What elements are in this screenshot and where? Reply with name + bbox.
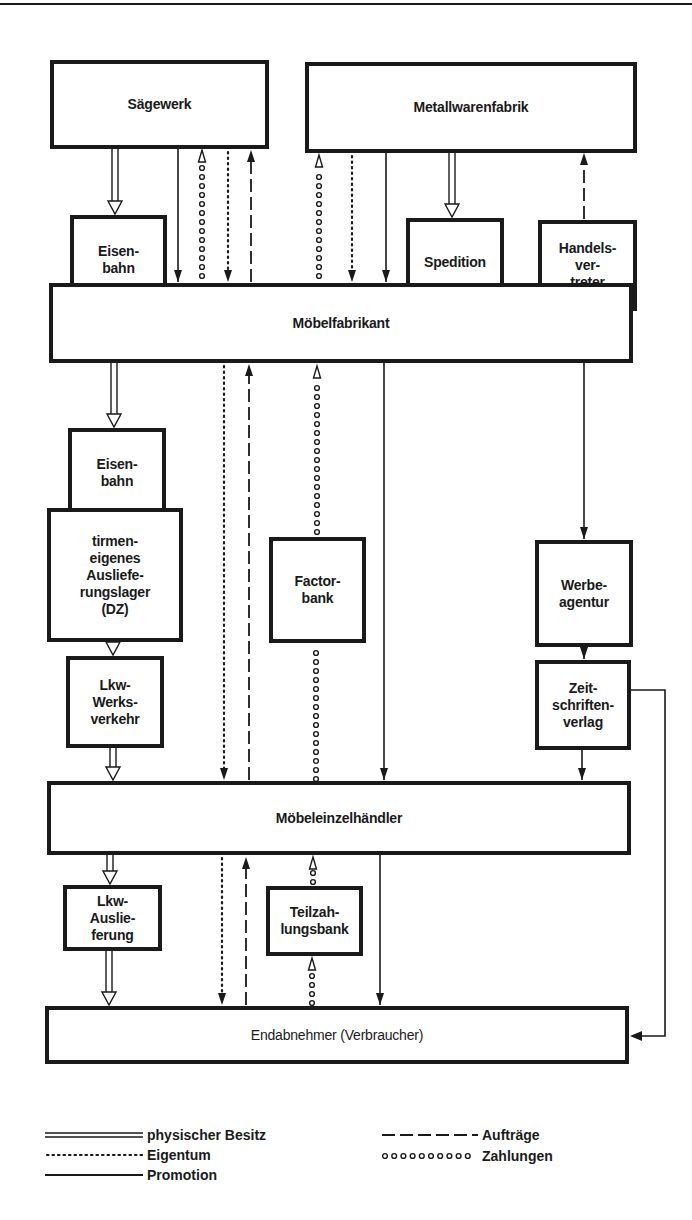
node-metallwarenfabrik: Metallwarenfabrik [305, 62, 637, 153]
node-moebeleinzelhaendler: Möbeleinzelhändler [47, 781, 631, 855]
circle-line-icon [382, 1151, 478, 1161]
node-saegewerk: Sägewerk [50, 60, 269, 149]
node-lkw-auslieferung: Lkw- Auslie- ferung [63, 885, 162, 951]
node-zeitschriftenverlag: Zeit- schriften- verlag [535, 660, 631, 750]
dotted-line-icon [45, 1150, 143, 1160]
legend-label-promotion: Promotion [147, 1166, 217, 1184]
node-teilzahlungsbank: Teilzah- lungsbank [266, 886, 363, 956]
node-eisenbahn-2: Eisen- bahn [68, 428, 166, 517]
legend-label-orders: Aufträge [482, 1126, 540, 1144]
legend-label-ownership: Eigentum [147, 1146, 211, 1164]
node-endabnehmer: Endabnehmer (Verbraucher) [45, 1006, 629, 1064]
double-line-icon [45, 1130, 143, 1140]
legend-label-payments: Zahlungen [482, 1147, 553, 1165]
dashed-line-icon [382, 1130, 478, 1140]
node-factorbank: Factor- bank [269, 537, 366, 643]
node-werbeagentur: Werbe- agentur [535, 540, 633, 647]
node-moebelfabrikant: Möbelfabrikant [49, 283, 633, 363]
solid-line-icon [45, 1170, 143, 1180]
node-auslieferungslager: tirmen- eigenes Ausliefe- rungslager (DZ… [47, 508, 183, 642]
legend-label-physical: physischer Besitz [147, 1126, 266, 1144]
node-lkw-werksverkehr: Lkw- Werks- verkehr [66, 656, 164, 748]
